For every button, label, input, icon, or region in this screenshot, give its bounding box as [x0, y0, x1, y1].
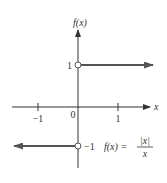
y-axis-label: f(x) — [73, 17, 88, 29]
function-formula: f(x) = |x| x — [104, 135, 153, 159]
y-tick-label-1: 1 — [67, 60, 72, 71]
formula-denominator: x — [142, 148, 148, 159]
formula-numerator: |x| — [140, 135, 150, 146]
x-axis-label: x — [153, 101, 159, 112]
x-tick-label-1: 1 — [116, 113, 121, 124]
open-circle-upper — [75, 62, 81, 68]
open-circle-lower — [75, 143, 81, 149]
y-tick-label-neg1: −1 — [84, 141, 95, 152]
x-tick-label-0: 0 — [71, 109, 76, 120]
x-tick-label-neg1: −1 — [33, 113, 44, 124]
step-function-graph: −1 0 1 1 −1 f(x) x f(x) = |x| x — [0, 0, 167, 183]
formula-lhs: f(x) = — [104, 141, 127, 153]
